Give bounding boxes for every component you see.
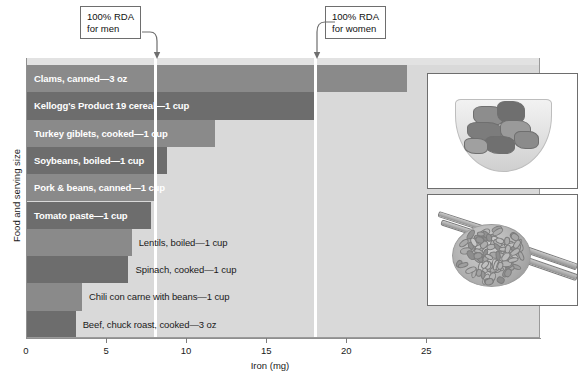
beans-cup-image [428,195,577,305]
cereal-flake [464,138,488,154]
cereal-flake [485,136,515,154]
x-axis-line [26,338,541,339]
bar-label-2: Turkey giblets, cooked—1 cup [27,120,168,147]
bar-label-1: Kellogg's Product 19 cereal—1 cup [27,92,189,119]
bar-label-3: Soybeans, boiled—1 cup [27,147,144,174]
rda-women-callout-line1: 100% RDA [332,11,379,23]
bar-label-7: Spinach, cooked—1 cup [135,256,236,283]
cereal-flake [514,131,538,149]
x-tick-15 [266,338,267,343]
bar-label-4: Pork & beans, canned—1 cup [27,174,165,201]
bar-9 [26,311,76,338]
x-axis-title: Iron (mg) [0,360,540,371]
x-tick-label-25: 25 [421,345,432,356]
bar-label-6: Lentils, boiled—1 cup [139,229,228,256]
bar-6 [26,229,132,256]
x-tick-5 [106,338,107,343]
bar-7 [26,256,128,283]
bar-label-5: Tomato paste—1 cup [27,202,128,229]
rda-men-callout-line2: for men [87,23,134,35]
rda-women-callout-line2: for women [332,23,379,35]
iron-content-chart: Clams, canned—3 ozKellogg's Product 19 c… [0,0,586,380]
bar-label-9: Beef, chuck roast, cooked—3 oz [83,311,217,338]
x-tick-25 [426,338,427,343]
beans-measuring-cup-photo [427,194,578,306]
x-tick-label-15: 15 [261,345,272,356]
bar-label-0: Clams, canned—3 oz [27,65,127,92]
rda-men-callout-line1: 100% RDA [87,11,134,23]
plot-top-strip [26,58,539,65]
bar-label-8: Chili con carne with beans—1 cup [89,283,229,310]
x-tick-20 [346,338,347,343]
x-tick-label-10: 10 [181,345,192,356]
measuring-cup [452,224,531,288]
cereal-bowl-photo [427,73,578,189]
x-tick-label-0: 0 [23,345,28,356]
rda-men-callout: 100% RDA for men [80,6,141,39]
bar-8 [26,283,82,310]
rda-men-arrow [140,30,174,62]
cereal-bowl-image [428,74,577,188]
x-tick-label-20: 20 [341,345,352,356]
y-axis-title: Food and serving size [11,126,22,266]
x-tick-label-5: 5 [103,345,108,356]
x-tick-10 [186,338,187,343]
rda-women-arrow [303,20,337,62]
rda-women-line [314,58,317,338]
